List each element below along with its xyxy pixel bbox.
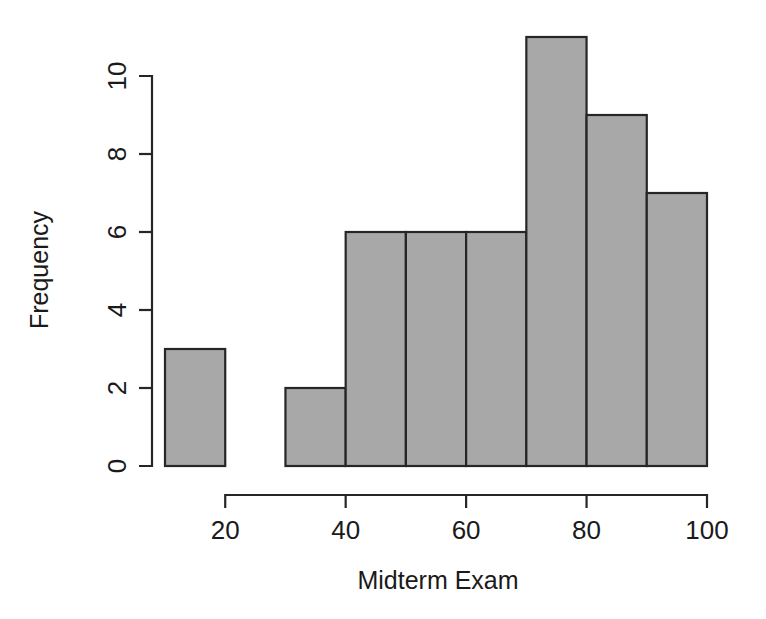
- x-axis-ticks: [346, 495, 587, 508]
- histogram-bar: [285, 388, 345, 466]
- y-axis-tick-label: 2: [102, 381, 132, 395]
- histogram-bar: [406, 232, 466, 466]
- x-axis-title: Midterm Exam: [357, 566, 518, 594]
- x-axis-tick-label: 20: [211, 515, 240, 545]
- histogram-figure: 0246810 20406080100 Frequency Midterm Ex…: [0, 0, 766, 619]
- bars-group: [165, 37, 707, 466]
- y-axis-tick-label: 8: [102, 147, 132, 161]
- x-axis-tick-label: 100: [685, 515, 728, 545]
- y-axis-tick-label: 6: [102, 225, 132, 239]
- x-axis-tick-label: 80: [572, 515, 601, 545]
- y-axis-title: Frequency: [25, 210, 53, 329]
- y-axis-line: [139, 76, 152, 466]
- x-axis-tick-labels: 20406080100: [211, 515, 729, 545]
- y-axis-tick-label: 4: [102, 303, 132, 317]
- y-axis-ticks: [139, 154, 152, 388]
- histogram-bar: [587, 115, 647, 466]
- histogram-bar: [466, 232, 526, 466]
- x-axis: [225, 495, 707, 508]
- histogram-bar: [346, 232, 406, 466]
- x-axis-tick-label: 60: [452, 515, 481, 545]
- histogram-plot: 0246810 20406080100 Frequency Midterm Ex…: [0, 0, 766, 619]
- x-axis-tick-label: 40: [331, 515, 360, 545]
- y-axis-tick-label: 10: [102, 62, 132, 91]
- histogram-bar: [526, 37, 586, 466]
- y-axis-tick-labels: 0246810: [102, 62, 132, 474]
- y-axis-tick-label: 0: [102, 459, 132, 473]
- y-axis: [139, 76, 152, 466]
- histogram-bar: [165, 349, 225, 466]
- histogram-bar: [647, 193, 707, 466]
